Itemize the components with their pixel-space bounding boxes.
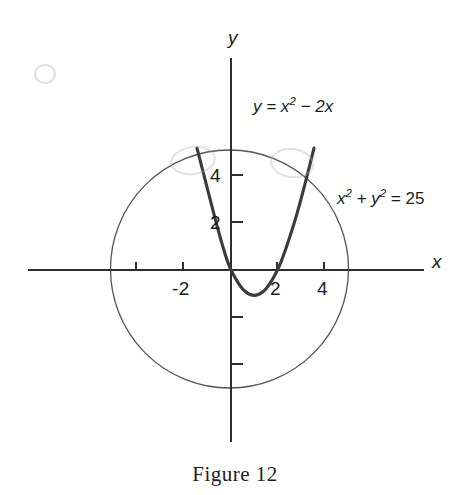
y-axis-label: y bbox=[228, 28, 238, 47]
x-axis-label: x bbox=[432, 252, 442, 271]
x-tick-label-neg2: -2 bbox=[172, 279, 190, 298]
circle-eq-x: x bbox=[337, 189, 346, 208]
circle-eq-tail: = 25 bbox=[386, 189, 424, 208]
x-tick-label-4: 4 bbox=[317, 279, 328, 298]
parabola-eq-main: y = x bbox=[253, 97, 289, 116]
circle-eq-y: y bbox=[371, 189, 380, 208]
circle-equation-label: x2 + y2 = 25 bbox=[337, 190, 425, 207]
figure-container: y x -2 2 4 4 2 y = x2 − 2x x2 + y2 = 25 … bbox=[0, 0, 470, 495]
x-tick-label-2: 2 bbox=[270, 279, 281, 298]
graph-canvas bbox=[0, 0, 470, 495]
parabola-eq-tail: − 2x bbox=[296, 97, 333, 116]
figure-caption: Figure 12 bbox=[0, 462, 470, 487]
parabola-equation-label: y = x2 − 2x bbox=[253, 98, 333, 115]
y-tick-label-4: 4 bbox=[210, 166, 221, 185]
circle-eq-plus: + bbox=[352, 189, 371, 208]
y-tick-label-2: 2 bbox=[210, 213, 221, 232]
